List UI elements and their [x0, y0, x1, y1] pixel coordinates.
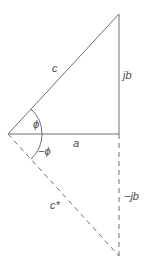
complex-conjugate-diagram: c jb a ϕ −ϕ c* −jb	[0, 0, 149, 270]
label-a: a	[73, 137, 79, 149]
hypotenuse-c-line	[8, 14, 119, 134]
label-minus-jb: −jb	[124, 190, 139, 202]
label-phi: ϕ	[33, 118, 39, 130]
conjugate-hypotenuse-line	[8, 134, 119, 256]
label-minus-phi: −ϕ	[38, 145, 51, 157]
label-c-conjugate: c*	[50, 199, 61, 211]
label-c: c	[52, 62, 58, 74]
label-jb: jb	[121, 69, 132, 81]
